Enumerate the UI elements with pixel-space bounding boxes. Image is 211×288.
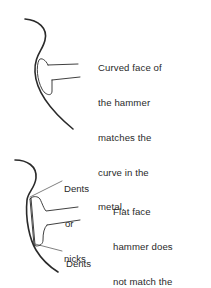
bottom-caption: Flat face hammer does not match the curv… — [113, 183, 195, 288]
lower-dents-label: Dents or nicks — [66, 235, 91, 288]
curved-metal-outline — [25, 19, 73, 129]
label-line: Dents — [64, 183, 89, 195]
label-line: or — [64, 218, 89, 230]
leader-line-lower — [35, 244, 62, 251]
caption-line: not match the — [113, 276, 195, 288]
caption-line: the hammer — [98, 97, 162, 109]
caption-line: curve in the — [98, 167, 162, 179]
caption-line: hammer does — [113, 241, 195, 253]
bottom-metal-outline — [15, 160, 58, 272]
caption-line: matches the — [98, 132, 162, 144]
curved-hammer-figure — [25, 19, 80, 129]
caption-line: Flat face — [113, 206, 195, 218]
label-line: Dents — [66, 258, 91, 270]
curved-hammer-face — [37, 59, 80, 95]
caption-line: Curved face of — [98, 62, 162, 74]
